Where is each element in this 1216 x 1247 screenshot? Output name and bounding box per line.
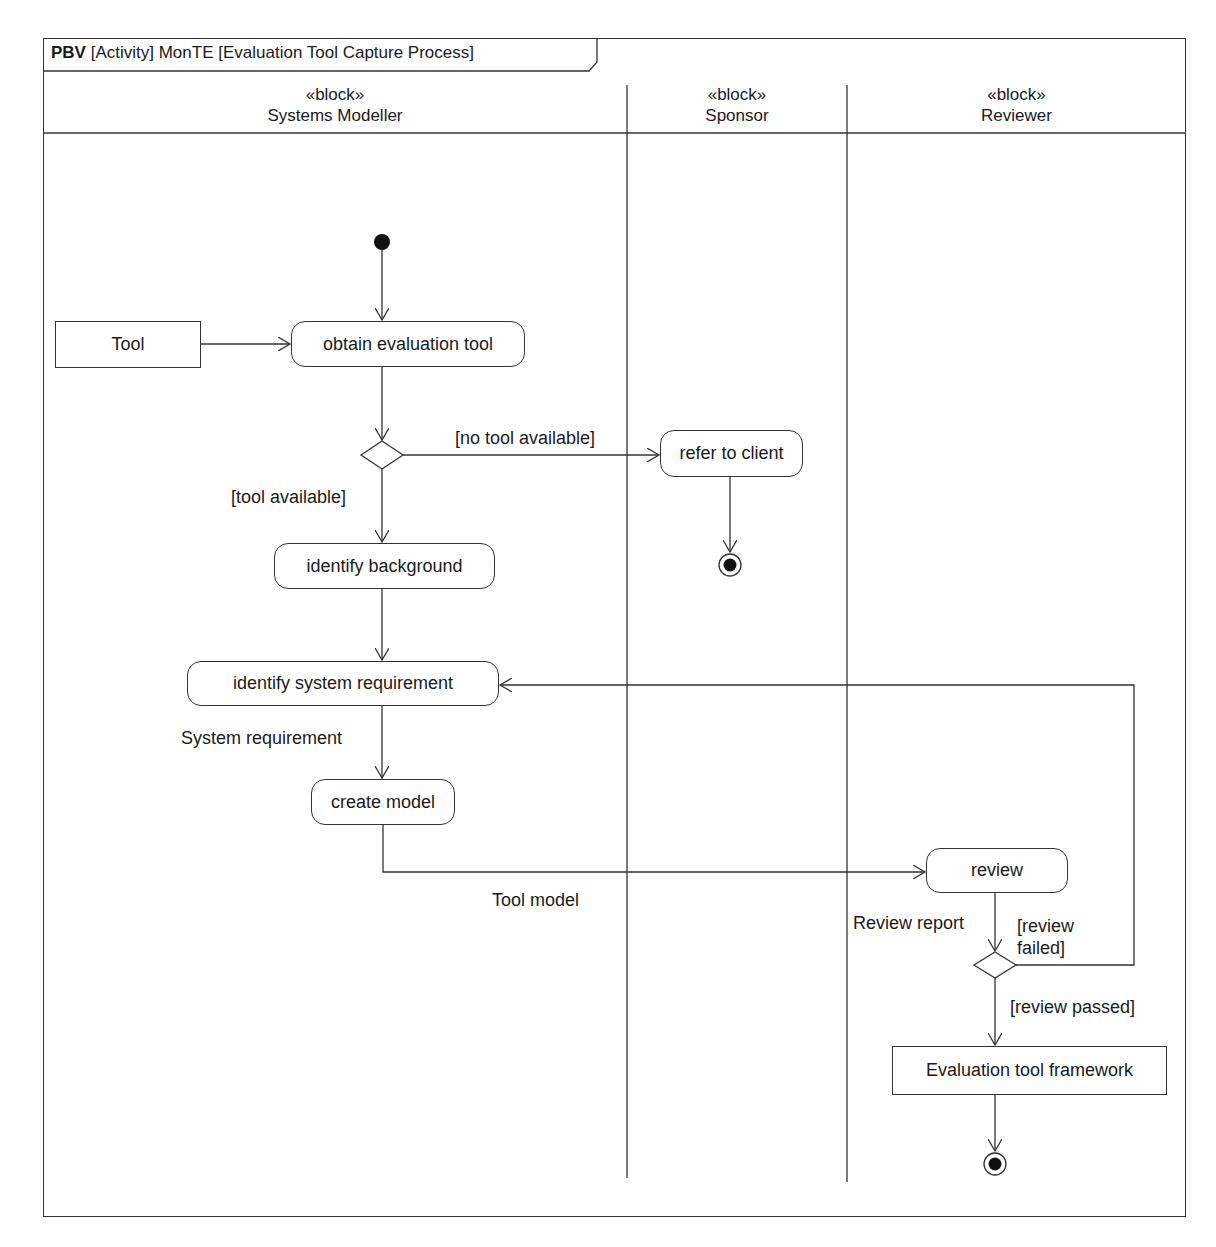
action-refer-to-client[interactable]: refer to client xyxy=(660,430,803,477)
swimlane-systems-modeller: «block» Systems Modeller xyxy=(43,84,627,126)
object-node-tool[interactable]: Tool xyxy=(55,321,201,368)
pin-label-review-report: Review report xyxy=(853,912,964,934)
decision-node-icon xyxy=(361,441,403,469)
action-identify-background[interactable]: identify background xyxy=(274,543,495,589)
action-obtain-evaluation-tool[interactable]: obtain evaluation tool xyxy=(291,321,525,367)
diagram-frame-title: PBV [Activity] MonTE [Evaluation Tool Ca… xyxy=(43,38,598,71)
lane-stereotype: «block» xyxy=(627,84,847,105)
guard-review-failed-line2: failed] xyxy=(1017,937,1074,959)
pin-label-tool-model: Tool model xyxy=(492,889,579,911)
pin-label-system-requirement: System requirement xyxy=(181,727,342,749)
lane-name: Systems Modeller xyxy=(43,105,627,126)
guard-review-passed: [review passed] xyxy=(1010,996,1135,1018)
lane-name: Sponsor xyxy=(627,105,847,126)
lane-name: Reviewer xyxy=(847,105,1186,126)
lane-stereotype: «block» xyxy=(43,84,627,105)
action-create-model[interactable]: create model xyxy=(311,779,455,825)
guard-review-failed-line1: [review xyxy=(1017,915,1074,937)
guard-tool-available: [tool available] xyxy=(231,486,346,508)
frame-kind: PBV xyxy=(51,43,86,62)
guard-review-failed: [review failed] xyxy=(1017,915,1074,959)
swimlane-sponsor: «block» Sponsor xyxy=(627,84,847,126)
lane-stereotype: «block» xyxy=(847,84,1186,105)
decision-node-icon xyxy=(974,952,1016,978)
frame-title-text: [Activity] MonTE [Evaluation Tool Captur… xyxy=(91,43,474,62)
guard-no-tool-available: [no tool available] xyxy=(455,427,595,449)
swimlane-reviewer: «block» Reviewer xyxy=(847,84,1186,126)
object-node-evaluation-tool-framework[interactable]: Evaluation tool framework xyxy=(892,1046,1167,1095)
initial-node-icon xyxy=(374,234,390,250)
action-review[interactable]: review xyxy=(926,848,1068,893)
action-identify-system-requirement[interactable]: identify system requirement xyxy=(187,661,499,706)
